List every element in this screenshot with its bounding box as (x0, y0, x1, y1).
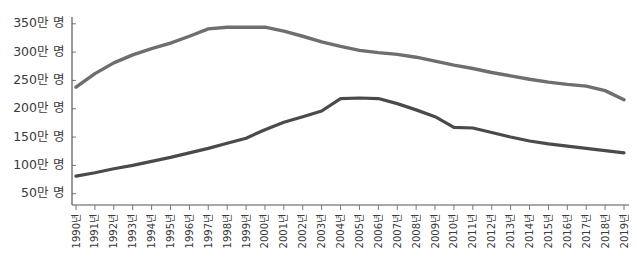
y-axis-tick-label: 250만 명 (13, 72, 65, 87)
x-axis-tick-label: 1999년 (241, 214, 252, 248)
x-axis-tick-label: 1996년 (184, 214, 195, 248)
x-axis-tick-label: 2003년 (316, 214, 327, 248)
x-axis-tick-label: 1994년 (146, 214, 157, 248)
x-axis-tick-label: 2000년 (259, 214, 270, 248)
y-axis-tick-label: 200만 명 (13, 100, 65, 115)
x-axis-tick-label: 1997년 (203, 214, 214, 248)
y-axis-tick-label: 50만 명 (21, 185, 65, 200)
x-axis-tick-label: 1990년 (71, 214, 82, 248)
y-axis-tick-label: 350만 명 (13, 15, 65, 30)
x-axis-tick-label: 2001년 (278, 214, 289, 248)
x-axis-tick-label: 2002년 (297, 214, 308, 248)
series-lines (76, 27, 624, 176)
chart-container: 50만 명100만 명150만 명200만 명250만 명300만 명350만 … (0, 0, 637, 263)
y-axis-labels: 50만 명100만 명150만 명200만 명250만 명300만 명350만 … (13, 15, 65, 200)
x-axis-tick-label: 1995년 (165, 214, 176, 248)
x-axis-tick-label: 1993년 (127, 214, 138, 248)
x-axis-tick-label: 2015년 (543, 214, 554, 248)
y-axis-tick-label: 150만 명 (13, 129, 65, 144)
x-axis-tick-label: 2011년 (467, 214, 478, 248)
x-axis-tick-label: 1992년 (108, 214, 119, 248)
x-axis-tick-label: 2010년 (448, 214, 459, 248)
x-axis-ticks (76, 205, 624, 210)
x-axis-tick-label: 2008년 (411, 214, 422, 248)
x-axis-tick-label: 2017년 (581, 214, 592, 248)
x-axis-tick-label: 2013년 (505, 214, 516, 248)
line-chart: 50만 명100만 명150만 명200만 명250만 명300만 명350만 … (0, 0, 637, 263)
x-axis-tick-label: 2005년 (354, 214, 365, 248)
x-axis-tick-label: 1998년 (222, 214, 233, 248)
y-axis-tick-label: 300만 명 (13, 44, 65, 59)
x-axis-tick-label: 1991년 (89, 214, 100, 248)
x-axis-tick-label: 2019년 (619, 214, 630, 248)
x-axis-tick-label: 2016년 (562, 214, 573, 248)
data-series-line (76, 98, 624, 176)
x-axis-tick-label: 2012년 (486, 214, 497, 248)
x-axis-tick-label: 2004년 (335, 214, 346, 248)
x-axis-tick-label: 2007년 (392, 214, 403, 248)
x-axis-tick-label: 2006년 (373, 214, 384, 248)
x-axis-labels: 1990년1991년1992년1993년1994년1995년1996년1997년… (71, 214, 630, 248)
x-axis-tick-label: 2009년 (430, 214, 441, 248)
y-axis-tick-label: 100만 명 (13, 157, 65, 172)
x-axis-tick-label: 2018년 (600, 214, 611, 248)
x-axis-tick-label: 2014년 (524, 214, 535, 248)
data-series-line (76, 27, 624, 99)
